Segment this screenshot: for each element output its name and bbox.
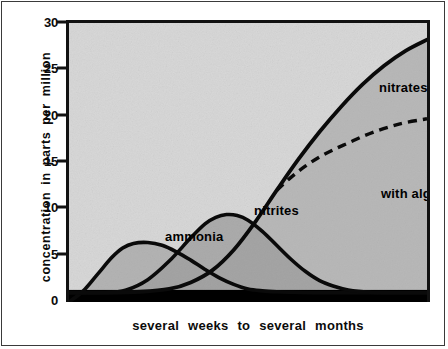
y-tick-mark-5: [57, 252, 66, 255]
chart-figure: 30 25 20 15 10 5 0 concentration in part…: [0, 0, 448, 349]
series-label-ammonia: ammonia: [165, 229, 223, 244]
y-axis: 30 25 20 15 10 5 0: [0, 0, 66, 349]
y-tick-mark-15: [57, 160, 66, 163]
y-tick-mark-25: [57, 67, 66, 70]
plot-svg: [69, 23, 427, 302]
series-label-nitrites: nitrites: [254, 203, 299, 218]
series-label-nitrates: nitrates: [379, 80, 428, 95]
y-tick-mark-20: [57, 113, 66, 116]
plot-area: ammonia nitrites nitrates with algae gro…: [66, 20, 430, 302]
y-axis-title: concentration in parts per million: [39, 17, 53, 317]
x-axis-title: several weeks to several months: [66, 318, 430, 333]
series-label-with-algae-growing: with algae growing: [381, 186, 430, 201]
y-tick-mark-30: [57, 21, 66, 24]
y-tick-mark-10: [57, 206, 66, 209]
